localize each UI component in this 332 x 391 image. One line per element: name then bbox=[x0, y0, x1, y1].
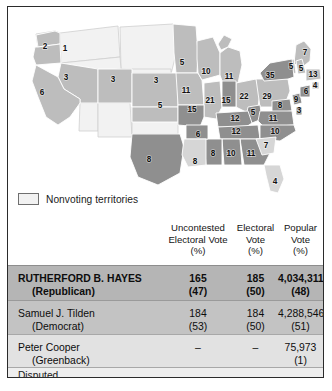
state-votes-nh: 5 bbox=[299, 64, 304, 73]
uncontested-cell-tilden: 184 (53) bbox=[163, 301, 233, 333]
header-electoral-line3: (%) bbox=[233, 245, 278, 257]
uncontested-pct: (53) bbox=[163, 320, 233, 333]
candidate-name: RUTHERFORD B. HAYES bbox=[18, 266, 163, 285]
state-votes-mn: 5 bbox=[180, 58, 185, 67]
state-votes-de: 3 bbox=[297, 106, 302, 115]
electoral-map: 2136335511101115211522293575513469385111… bbox=[8, 7, 323, 212]
candidate-cell-hayes: RUTHERFORD B. HAYES (Republican) bbox=[8, 266, 163, 298]
table-header-row: Uncontested Electoral Vote (%) Electoral… bbox=[8, 213, 323, 265]
state-votes-nc: 10 bbox=[270, 127, 280, 136]
state-votes-ia: 11 bbox=[182, 86, 191, 95]
state-votes-md: 8 bbox=[278, 101, 283, 110]
state-votes-la: 8 bbox=[193, 157, 198, 166]
state-votes-ca: 6 bbox=[40, 88, 45, 97]
header-electoral-line1: Electoral bbox=[233, 222, 278, 234]
state-votes-or: 2 bbox=[43, 42, 48, 51]
uncontested-value: – bbox=[163, 341, 233, 354]
state-votes-sc: 7 bbox=[264, 141, 269, 150]
popular-pct: (1) bbox=[278, 354, 323, 367]
state-votes-in: 15 bbox=[221, 96, 231, 105]
electoral-pct: (50) bbox=[233, 320, 278, 333]
state-votes-tx: 8 bbox=[147, 155, 152, 164]
state-votes-ga: 11 bbox=[247, 149, 256, 158]
popular-pct: (48) bbox=[278, 285, 323, 298]
figure-frame: 2136335511101115211522293575513469385111… bbox=[7, 6, 324, 378]
candidate-name: Peter Cooper bbox=[18, 335, 163, 354]
uncontested-cell-hayes: 165 (47) bbox=[163, 266, 233, 298]
header-electoral-line2: Vote bbox=[233, 234, 278, 246]
state-votes-pa: 29 bbox=[262, 92, 272, 101]
state-votes-va: 11 bbox=[269, 114, 278, 123]
state-votes-wi: 10 bbox=[201, 67, 211, 76]
popular-cell-cooper: 75,973 (1) bbox=[278, 335, 323, 367]
state-votes-ny: 35 bbox=[265, 71, 275, 80]
nonvoting-territories-swatch bbox=[18, 193, 39, 205]
popular-cell-tilden: 4,288,546 (51) bbox=[278, 301, 323, 333]
popular-value: 4,288,546 bbox=[278, 307, 323, 320]
header-uncontested-line3: (%) bbox=[163, 245, 233, 257]
candidate-cell-tilden: Samuel J. Tilden (Democrat) bbox=[8, 301, 163, 333]
header-popular-vote: Popular Vote (%) bbox=[278, 213, 323, 257]
state-votes-ar: 6 bbox=[196, 130, 201, 139]
state-votes-wv: 5 bbox=[251, 108, 256, 117]
electoral-cell-hayes: 185 (50) bbox=[233, 266, 278, 298]
popular-value: 75,973 bbox=[278, 341, 323, 354]
popular-value: 4,034,311 bbox=[278, 272, 323, 285]
state-votes-id: 1 bbox=[63, 44, 68, 53]
electoral-cell-tilden: 184 (50) bbox=[233, 301, 278, 333]
header-electoral-vote: Electoral Vote (%) bbox=[233, 213, 278, 257]
uncontested-value: 165 bbox=[163, 272, 233, 285]
legend-label: Nonvoting territories bbox=[46, 194, 138, 205]
electoral-value: 185 bbox=[233, 272, 278, 285]
uncontested-value: 184 bbox=[163, 307, 233, 320]
state-votes-nj: 9 bbox=[294, 95, 299, 104]
state-votes-me: 7 bbox=[303, 48, 308, 57]
electoral-value: 184 bbox=[233, 307, 278, 320]
state-votes-nv: 3 bbox=[64, 73, 69, 82]
header-popular-line1: Popular bbox=[278, 222, 323, 234]
header-popular-line2: Vote bbox=[278, 234, 323, 246]
state-votes-mo: 15 bbox=[187, 105, 197, 114]
state-votes-ma: 13 bbox=[308, 70, 318, 79]
state-votes-co: 3 bbox=[111, 75, 116, 84]
state-votes-fl: 4 bbox=[273, 177, 278, 186]
electoral-pct: (50) bbox=[233, 285, 278, 298]
uncontested-pct: (47) bbox=[163, 285, 233, 298]
table-row: Peter Cooper (Greenback) – – 75,973 (1) bbox=[8, 334, 323, 367]
table-row: RUTHERFORD B. HAYES (Republican) 165 (47… bbox=[8, 265, 323, 300]
candidate-name: Samuel J. Tilden bbox=[18, 301, 163, 320]
state-votes-oh: 22 bbox=[239, 92, 249, 101]
table-row: Samuel J. Tilden (Democrat) 184 (53) 184… bbox=[8, 300, 323, 334]
state-votes-ky: 12 bbox=[230, 114, 240, 123]
state-votes-tn: 12 bbox=[231, 127, 241, 136]
map-legend: Nonvoting territories bbox=[18, 193, 138, 205]
state-votes-ms: 8 bbox=[211, 149, 216, 158]
state-votes-ks: 5 bbox=[158, 101, 163, 110]
state-votes-al: 10 bbox=[226, 149, 236, 158]
state-votes-il: 21 bbox=[205, 96, 215, 105]
header-uncontested-line1: Uncontested bbox=[163, 222, 233, 234]
header-uncontested-electoral-vote: Uncontested Electoral Vote (%) bbox=[163, 213, 233, 257]
candidate-party: (Democrat) bbox=[18, 320, 163, 333]
state-votes-mi: 11 bbox=[225, 72, 234, 81]
uncontested-cell-cooper: – bbox=[163, 335, 233, 354]
state-votes-ri: 4 bbox=[313, 81, 318, 90]
table-footer-row: Disputed bbox=[8, 367, 323, 378]
candidate-party: (Republican) bbox=[18, 285, 163, 298]
candidate-party: (Greenback) bbox=[18, 354, 163, 367]
results-table: Uncontested Electoral Vote (%) Electoral… bbox=[8, 213, 323, 377]
state-votes-ne: 3 bbox=[154, 76, 159, 85]
header-popular-line3: (%) bbox=[278, 245, 323, 257]
state-votes-vt: 5 bbox=[289, 62, 294, 71]
state-votes-ct: 6 bbox=[304, 87, 309, 96]
popular-cell-hayes: 4,034,311 (48) bbox=[278, 266, 323, 298]
figure-inner: 2136335511101115211522293575513469385111… bbox=[8, 7, 323, 377]
electoral-value: – bbox=[233, 341, 278, 354]
header-uncontested-line2: Electoral Vote bbox=[163, 234, 233, 246]
electoral-map-svg: 2136335511101115211522293575513469385111… bbox=[8, 7, 323, 212]
disputed-label: Disputed bbox=[8, 368, 58, 378]
electoral-cell-cooper: – bbox=[233, 335, 278, 354]
popular-pct: (51) bbox=[278, 320, 323, 333]
candidate-cell-cooper: Peter Cooper (Greenback) bbox=[8, 335, 163, 367]
